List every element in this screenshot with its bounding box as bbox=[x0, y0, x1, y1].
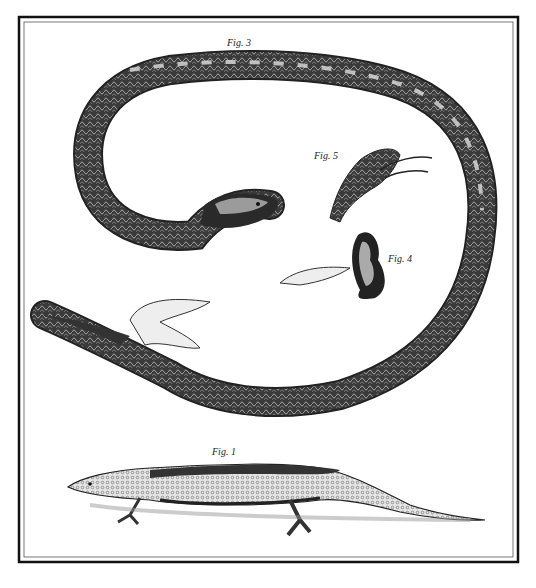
fig4-organ bbox=[280, 232, 385, 299]
engraving-plate bbox=[0, 0, 536, 588]
fig3-snake bbox=[42, 62, 482, 402]
fig5-label: Fig. 5 bbox=[314, 150, 338, 161]
fig5-snake-head bbox=[330, 149, 432, 222]
fig1-lizard bbox=[68, 464, 485, 535]
fig3-label: Fig. 3 bbox=[227, 37, 251, 48]
fig4-label: Fig. 4 bbox=[388, 253, 412, 264]
fig1-label: Fig. 1 bbox=[212, 446, 236, 457]
